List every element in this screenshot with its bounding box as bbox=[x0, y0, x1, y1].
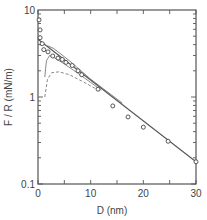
data-point bbox=[70, 64, 74, 68]
data-point bbox=[194, 160, 198, 164]
y-tick-label: 1 bbox=[29, 92, 35, 103]
x-tick-label: 10 bbox=[85, 188, 97, 199]
data-point bbox=[42, 48, 46, 52]
curve-theory-dashed bbox=[45, 72, 101, 97]
data-point bbox=[46, 50, 50, 54]
curve-theory-upper bbox=[48, 46, 123, 104]
data-point bbox=[38, 28, 42, 32]
x-tick-label: 30 bbox=[190, 188, 202, 199]
data-point bbox=[60, 57, 64, 61]
data-point bbox=[40, 42, 44, 46]
data-point bbox=[96, 87, 100, 91]
x-axis-ticks bbox=[38, 10, 196, 184]
data-point bbox=[64, 60, 68, 64]
y-tick-label: 10 bbox=[24, 5, 36, 16]
x-axis-title: D (nm) bbox=[97, 205, 128, 216]
data-point bbox=[56, 56, 60, 60]
data-point bbox=[141, 125, 145, 129]
tick-labels: 01020300.1110 bbox=[21, 5, 202, 199]
data-point bbox=[51, 54, 55, 58]
data-point bbox=[37, 18, 41, 22]
data-points bbox=[37, 18, 198, 164]
data-point bbox=[38, 36, 42, 40]
plot-border bbox=[38, 10, 196, 184]
x-tick-label: 20 bbox=[138, 188, 150, 199]
y-tick-label: 0.1 bbox=[21, 179, 35, 190]
data-point bbox=[111, 104, 115, 108]
plot-frame bbox=[38, 10, 196, 184]
x-tick-label: 0 bbox=[35, 188, 41, 199]
data-point bbox=[166, 139, 170, 143]
data-point bbox=[76, 69, 80, 73]
data-point bbox=[126, 115, 130, 119]
data-point bbox=[80, 73, 84, 77]
y-axis-title: F / R (mN/m) bbox=[3, 68, 14, 126]
force-distance-chart: 01020300.1110 D (nm) F / R (mN/m) bbox=[0, 0, 207, 220]
